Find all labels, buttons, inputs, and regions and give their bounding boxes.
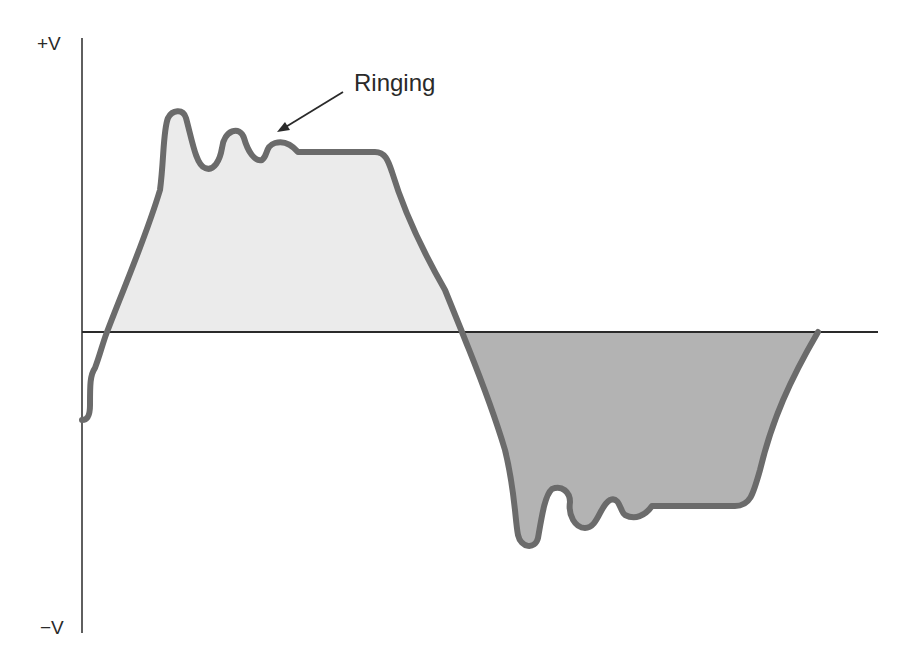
annotation-arrow-line	[284, 92, 343, 128]
ringing-annotation-label: Ringing	[354, 69, 435, 97]
waveform-canvas	[0, 0, 908, 671]
y-axis-positive-label: +V	[37, 33, 61, 55]
annotation-arrow-head	[277, 122, 290, 132]
ringing-waveform-diagram: +V −V Ringing	[0, 0, 908, 671]
y-axis-negative-label: −V	[40, 617, 64, 639]
